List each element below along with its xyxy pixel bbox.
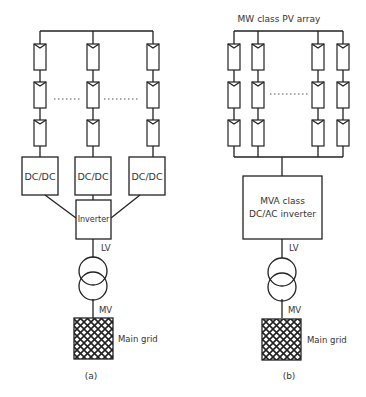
dcdc-label-2: DC/DC [77,171,108,182]
pv-string-b1 [228,44,240,146]
main-grid-icon-b [262,319,301,360]
pv-string-a1 [34,44,46,146]
pv-array-title: MW class PV array [238,14,321,24]
inverter-label-a: Inverter [78,215,110,224]
mv-label-a: MV [99,305,112,315]
pv-string-b2 [252,44,264,146]
lv-label-b: LV [289,243,299,253]
pv-string-a2 [87,44,99,146]
dcdc-label-3: DC/DC [131,171,162,182]
caption-b: (b) [283,371,296,381]
pv-string-b4 [337,44,349,146]
pv-string-b3 [312,44,324,146]
mva-inverter-box [243,176,322,239]
caption-a: (a) [85,371,98,381]
dcdc-label-1: DC/DC [24,171,55,182]
transformer-icon-a [79,257,107,300]
pv-system-diagram: DC/DC DC/DC DC/DC Inverter LV MV Main gr… [0,0,366,397]
grid-label-b: Main grid [307,335,347,345]
pv-string-a3 [147,44,159,146]
inverter-label-b-line2: DC/AC inverter [249,209,316,219]
mv-label-b: MV [288,305,301,315]
lv-label-a: LV [101,243,111,253]
grid-label-a: Main grid [118,334,158,344]
inverter-label-b-line1: MVA class [260,196,305,206]
transformer-icon-b [268,258,296,301]
main-grid-icon-a [74,318,113,359]
